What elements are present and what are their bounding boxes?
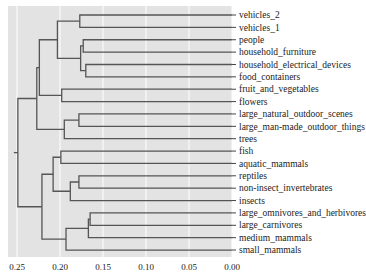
leaf-label: flowers — [239, 97, 268, 107]
leaf-label: vehicles_1 — [239, 23, 280, 33]
x-tick-label: 0.20 — [52, 262, 68, 272]
leaf-label: large_omnivores_and_herbivores — [239, 208, 366, 218]
leaf-label: food_containers — [239, 72, 301, 82]
leaf-label: large_natural_outdoor_scenes — [239, 109, 353, 119]
leaf-label: vehicles_2 — [239, 10, 280, 20]
x-tick-label: 0.15 — [95, 262, 111, 272]
leaf-label: trees — [239, 134, 257, 144]
leaf-label: reptiles — [239, 171, 267, 181]
leaf-label: aquatic_mammals — [239, 159, 308, 169]
x-tick-label: 0.05 — [181, 262, 197, 272]
leaf-label: people — [239, 35, 264, 45]
leaf-labels: vehicles_2vehicles_1peoplehousehold_furn… — [239, 10, 366, 255]
leaf-tick-marks — [232, 15, 236, 250]
x-tick-label: 0.25 — [9, 262, 25, 272]
leaf-label: fruit_and_vegetables — [239, 84, 319, 94]
x-tick-label: 0.00 — [224, 262, 240, 272]
leaf-label: large_carnivores — [239, 220, 302, 230]
leaf-label: medium_mammals — [239, 233, 312, 243]
leaf-label: non-insect_invertebrates — [239, 183, 333, 193]
x-axis-ticks: 0.250.200.150.100.050.00 — [9, 262, 240, 272]
leaf-label: small_mammals — [239, 245, 302, 255]
leaf-label: fish — [239, 146, 254, 156]
x-tick-label: 0.10 — [138, 262, 154, 272]
leaf-label: insects — [239, 196, 265, 206]
leaf-label: household_furniture — [239, 47, 316, 57]
leaf-label: large_man-made_outdoor_things — [239, 122, 365, 132]
dendrogram-chart: vehicles_2vehicles_1peoplehousehold_furn… — [0, 0, 366, 280]
leaf-label: household_electrical_devices — [239, 60, 351, 70]
